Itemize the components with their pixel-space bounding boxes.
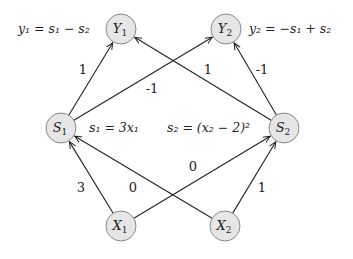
edge-weight-label: 1 [79, 62, 87, 77]
edge-x1-s1 [69, 142, 113, 214]
edge-weight-label: 0 [189, 159, 197, 174]
equation-y1: y₁ = s₁ − s₂ [17, 21, 90, 36]
edge-weight-label: 0 [129, 180, 137, 195]
edge-x1-s2 [134, 136, 270, 218]
equation-y2: y₂ = −s₁ + s₂ [248, 21, 331, 36]
edge-s2-y2 [234, 43, 276, 115]
edge-s1-y2 [74, 37, 212, 120]
diagram-svg: 1-11-13001 Y1Y2S1S2X1X2 y₁ = s₁ − s₂ y₂ … [0, 0, 353, 259]
edge-weight-label: 1 [258, 180, 266, 195]
edge-weight-label: 1 [204, 62, 212, 77]
equation-s2: s₂ = (x₂ − 2)² [167, 120, 250, 135]
edge-weight-label: -1 [256, 62, 269, 77]
edge-weight-label: 3 [77, 180, 85, 195]
node-s2: S2 [269, 113, 299, 143]
node-x2: X2 [210, 211, 240, 241]
node-y1: Y1 [106, 14, 136, 44]
edge-weight-label: -1 [146, 81, 159, 96]
node-x1: X1 [106, 211, 136, 241]
node-y2: Y2 [211, 14, 241, 44]
node-s1: S1 [46, 113, 76, 143]
edge-x2-s1 [75, 136, 212, 218]
edge-s1-y1 [69, 43, 113, 115]
edge-x2-s2 [233, 142, 276, 213]
neural-network-diagram: 1-11-13001 Y1Y2S1S2X1X2 y₁ = s₁ − s₂ y₂ … [0, 0, 353, 259]
edge-s2-y1 [135, 37, 272, 120]
equation-s1: s₁ = 3x₁ [89, 120, 139, 135]
